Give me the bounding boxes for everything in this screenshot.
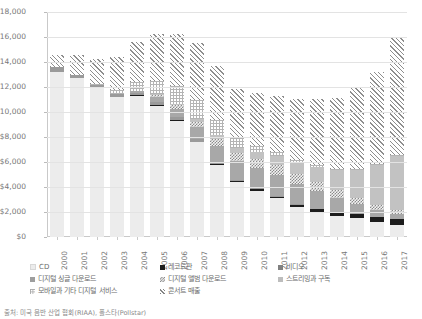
- x-axis-tick-mark: [317, 237, 318, 240]
- y-axis-tick-mark: [44, 212, 47, 213]
- bar-2012: [290, 99, 304, 237]
- y-axis-tick-mark: [44, 112, 47, 113]
- bar-segment-digital_album_download: [210, 139, 224, 146]
- y-axis-tick-label: $8,000: [0, 133, 26, 141]
- legend-item-digital_single_download[interactable]: 디지털 싱글 다운로드: [30, 275, 96, 283]
- bar-segment-digital_single_download: [270, 175, 284, 196]
- legend-item-video[interactable]: 비디오: [278, 263, 304, 271]
- bar-segment-cd: [370, 222, 384, 237]
- y-axis-tick-mark: [44, 187, 47, 188]
- x-axis-tick-mark: [117, 237, 118, 240]
- x-axis-tick-mark: [97, 237, 98, 240]
- gridline: [47, 212, 407, 213]
- legend-swatch-streaming_subscription-icon: [278, 277, 283, 282]
- bar-segment-concert_revenue: [170, 34, 184, 87]
- gridline: [47, 137, 407, 138]
- gridline: [47, 87, 407, 88]
- legend-item-streaming_subscription[interactable]: 스트리밍과 구독: [278, 275, 330, 283]
- legend-label-concert_revenue: 콘서트 매출: [168, 287, 200, 295]
- bar-segment-concert_revenue: [50, 55, 64, 68]
- bar-segment-mobile_other_digital: [170, 86, 184, 104]
- bar-segment-digital_single_download: [210, 146, 224, 162]
- bar-segment-cd: [150, 106, 164, 237]
- bar-segment-digital_album_download: [290, 174, 304, 184]
- bar-segment-digital_single_download: [250, 168, 264, 188]
- bar-segment-cd: [390, 225, 404, 238]
- bar-segment-cd: [230, 182, 244, 237]
- bar-segment-cd: [330, 216, 344, 237]
- bar-segment-concert_revenue: [70, 55, 84, 75]
- y-axis-tick-mark: [44, 12, 47, 13]
- chart-legend: CD레코드판비디오디지털 싱글 다운로드디지털 앨범 다운로드스트리밍과 구독모…: [30, 263, 410, 303]
- bar-segment-digital_single_download: [330, 198, 344, 212]
- legend-row: CD레코드판비디오: [30, 263, 410, 274]
- legend-item-mobile_other_digital[interactable]: 모바일과 기타 디지털 서비스: [30, 287, 117, 295]
- bar-segment-concert_revenue: [150, 34, 164, 80]
- bar-segment-streaming_subscription: [270, 156, 284, 165]
- bar-segment-concert_revenue: [230, 89, 244, 138]
- bar-2014: [330, 98, 344, 238]
- x-axis-tick-mark: [77, 237, 78, 240]
- bar-segment-digital_single_download: [230, 161, 244, 180]
- legend-item-digital_album_download[interactable]: 디지털 앨범 다운로드: [160, 275, 226, 283]
- legend-label-video: 비디오: [286, 263, 304, 271]
- bar-segment-cd: [70, 78, 84, 237]
- legend-swatch-cd-icon: [30, 264, 36, 270]
- legend-item-cd[interactable]: CD: [30, 263, 49, 271]
- bar-segment-concert_revenue: [250, 93, 264, 146]
- bar-segment-cd: [190, 142, 204, 237]
- y-axis-tick-mark: [44, 62, 47, 63]
- y-axis-tick-mark: [44, 237, 47, 238]
- bar-2011: [270, 96, 284, 237]
- stacked-bar-chart: $0$2,000$4,000$6,000$8,000$10,000$12,000…: [0, 0, 422, 319]
- bar-segment-concert_revenue: [310, 99, 324, 165]
- y-axis-tick-mark: [44, 37, 47, 38]
- bar-segment-streaming_subscription: [370, 165, 384, 205]
- legend-swatch-concert_revenue-icon: [160, 289, 165, 294]
- x-axis-tick-mark: [377, 237, 378, 240]
- gridline: [47, 187, 407, 188]
- x-axis-tick-mark: [357, 237, 358, 240]
- chart-caption: 출처: 미국 음반 산업 협회(RIAA), 폴스타(Pollstar): [4, 309, 422, 317]
- legend-label-vinyl: 레코드판: [168, 263, 192, 271]
- y-axis-tick-label: $2,000: [0, 208, 26, 216]
- bar-2001: [70, 55, 84, 237]
- y-axis-tick-label: $0: [0, 233, 26, 241]
- bar-segment-cd: [110, 97, 124, 237]
- bar-2003: [110, 57, 124, 237]
- x-axis-tick-mark: [257, 237, 258, 240]
- bar-segment-concert_revenue: [370, 72, 384, 165]
- x-axis-tick-mark: [397, 237, 398, 240]
- bar-segment-cd: [310, 212, 324, 237]
- bar-segment-cd: [210, 165, 224, 238]
- bar-2006: [170, 34, 184, 237]
- bar-segment-streaming_subscription: [310, 167, 324, 182]
- bar-segment-cd: [350, 218, 364, 237]
- legend-swatch-mobile_other_digital-icon: [30, 289, 35, 294]
- x-axis-tick-mark: [177, 237, 178, 240]
- x-axis-tick-mark: [197, 237, 198, 240]
- y-axis-tick-label: $10,000: [0, 108, 26, 116]
- bar-2013: [310, 99, 324, 237]
- legend-label-mobile_other_digital: 모바일과 기타 디지털 서비스: [38, 287, 117, 295]
- y-axis-tick-mark: [44, 137, 47, 138]
- legend-item-vinyl[interactable]: 레코드판: [160, 263, 192, 271]
- y-axis-tick-label: $12,000: [0, 83, 26, 91]
- x-axis-tick-mark: [57, 237, 58, 240]
- bar-2002: [90, 59, 104, 237]
- bar-group: [47, 12, 407, 237]
- bar-segment-streaming_subscription: [350, 170, 364, 198]
- bar-segment-mobile_other_digital: [210, 120, 224, 135]
- bar-2005: [150, 34, 164, 237]
- gridline: [47, 162, 407, 163]
- x-axis-tick-mark: [217, 237, 218, 240]
- gridline: [47, 12, 407, 13]
- y-axis-tick-label: $16,000: [0, 33, 26, 41]
- legend-row: 모바일과 기타 디지털 서비스콘서트 매출: [30, 287, 410, 298]
- legend-item-concert_revenue[interactable]: 콘서트 매출: [160, 287, 200, 295]
- legend-label-digital_album_download: 디지털 앨범 다운로드: [168, 275, 226, 283]
- bar-segment-concert_revenue: [290, 99, 304, 160]
- bar-segment-cd: [170, 121, 184, 237]
- bar-segment-mobile_other_digital: [230, 138, 244, 148]
- x-axis-tick-mark: [137, 237, 138, 240]
